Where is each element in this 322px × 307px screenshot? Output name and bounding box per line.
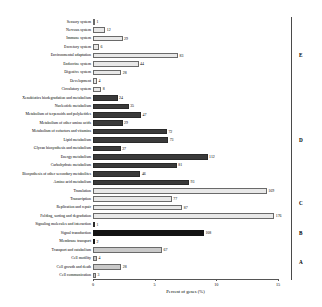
category-label: Amino acid metabolism	[54, 178, 91, 186]
bar	[93, 137, 168, 143]
chart-row: Amino acid metabolism93	[0, 179, 322, 187]
category-label: Cell growth and death	[57, 263, 91, 271]
chart-row: Replication and repair87	[0, 204, 322, 212]
chart-row: Immune system29	[0, 35, 322, 43]
bar-value-label: 112	[209, 153, 215, 161]
bar	[93, 205, 182, 211]
bar	[93, 273, 96, 279]
bar-value-label: 35	[130, 102, 134, 110]
bar	[93, 247, 162, 253]
bar	[93, 95, 118, 101]
bar	[93, 36, 123, 42]
chart-row: Digestive system28	[0, 69, 322, 77]
chart-row: Energy metabolism112	[0, 153, 322, 161]
bar	[93, 163, 177, 169]
bar-value-label: 73	[170, 136, 174, 144]
chart-row: Cell growth and death28	[0, 263, 322, 271]
bar	[93, 222, 95, 228]
bar	[93, 180, 189, 186]
category-label: Circulatory system	[62, 85, 92, 93]
chart-row: Sensory system1	[0, 18, 322, 26]
bar-value-label: 44	[140, 60, 144, 68]
category-label: Glycan biosynthesis and metabolism	[34, 144, 91, 152]
bar-value-label: 93	[191, 178, 195, 186]
x-axis-title: Percent of genes (%)	[93, 289, 278, 294]
bar	[93, 188, 267, 194]
x-tick-label: 15	[276, 282, 280, 288]
chart-row: Metabolism of cofactors and vitamins72	[0, 128, 322, 136]
bar	[93, 154, 208, 160]
bar-value-label: 28	[123, 263, 127, 271]
category-label: Nucleotide metabolism	[55, 102, 91, 110]
category-label: Metabolism of terpenoids and polyketides	[26, 110, 91, 118]
chart-row: Nucleotide metabolism35	[0, 103, 322, 111]
bar-value-label: 6	[101, 43, 103, 51]
chart-row: Carbohydrate metabolism81	[0, 162, 322, 170]
bar-value-label: 169	[268, 187, 274, 195]
category-label: Endocrine system	[63, 60, 91, 68]
category-label: Transcription	[70, 195, 91, 203]
bar	[93, 44, 99, 50]
group-bracket-line	[291, 17, 292, 95]
category-label: Excretory system	[64, 43, 91, 51]
bar	[93, 78, 97, 84]
bar-value-label: 2	[97, 238, 99, 246]
chart-row: Translation169	[0, 187, 322, 195]
category-label: Signaling molecules and interaction	[35, 220, 91, 228]
group-label: D	[299, 137, 303, 143]
chart-row: Membrane transport2	[0, 238, 322, 246]
x-tick-label: 5	[154, 282, 156, 288]
bar-value-label: 176	[276, 212, 282, 220]
bar	[93, 112, 141, 118]
bar-value-label: 87	[184, 204, 188, 212]
category-label: Sensory system	[67, 18, 91, 26]
chart-row: Glycan biosynthesis and metabolism27	[0, 145, 322, 153]
bar	[93, 53, 178, 59]
bar-value-label: 83	[180, 52, 184, 60]
x-axis-line	[93, 279, 278, 280]
category-label: Energy metabolism	[61, 153, 91, 161]
x-tick-label: 10	[214, 282, 218, 288]
category-label: Carbohydrate metabolism	[51, 161, 91, 169]
category-label: Transport and catabolism	[52, 246, 91, 254]
bar-value-label: 12	[107, 26, 111, 34]
bar-value-label: 27	[122, 145, 126, 153]
chart-row: Endocrine system44	[0, 60, 322, 68]
bar	[93, 19, 95, 25]
bar-value-label: 8	[103, 85, 105, 93]
bar	[93, 120, 123, 126]
bar	[93, 87, 101, 93]
bar-value-label: 67	[163, 246, 167, 254]
chart-row: Cell motility4	[0, 255, 322, 263]
chart-row: Folding, sorting and degradation176	[0, 212, 322, 220]
group-bracket-line	[291, 186, 292, 221]
chart-row: Transport and catabolism67	[0, 246, 322, 254]
x-tick-label: 0	[92, 282, 94, 288]
group-label: E	[299, 52, 302, 58]
chart-row: Nervous system12	[0, 26, 322, 34]
bar	[93, 239, 95, 245]
bar-value-label: 77	[173, 195, 177, 203]
bar	[93, 230, 204, 236]
plot-area: Sensory system1Nervous system12Immune sy…	[0, 0, 322, 307]
category-label: Cell motility	[71, 254, 91, 262]
bar-value-label: 46	[142, 170, 146, 178]
bar	[93, 61, 139, 67]
bar-value-label: 47	[143, 111, 147, 119]
chart-row: Circulatory system8	[0, 86, 322, 94]
category-label: Lipid metabolism	[63, 136, 91, 144]
bar-value-label: 29	[124, 119, 128, 127]
category-label: Xenobiotics biodegradation and metabolis…	[22, 94, 91, 102]
chart-row: Metabolism of terpenoids and polyketides…	[0, 111, 322, 119]
bar	[93, 146, 121, 152]
chart-row: Biosynthesis of other secondary metaboli…	[0, 170, 322, 178]
bar	[93, 129, 167, 135]
bar-value-label: 81	[178, 161, 182, 169]
bar-value-label: 72	[168, 128, 172, 136]
bar-value-label: 1	[97, 18, 99, 26]
category-label: Development	[70, 77, 91, 85]
category-label: Biosynthesis of other secondary metaboli…	[22, 170, 91, 178]
chart-row: Excretory system6	[0, 43, 322, 51]
bar	[93, 104, 129, 110]
category-label: Metabolism of cofactors and vitamins	[32, 127, 91, 135]
